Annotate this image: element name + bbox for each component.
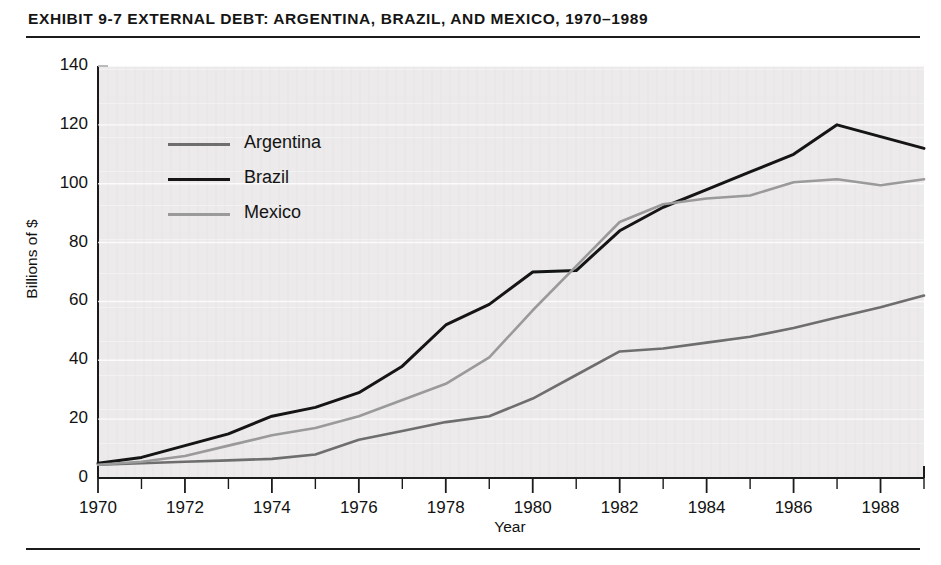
title-block: EXHIBIT 9-7 EXTERNAL DEBT: ARGENTINA, BR… <box>0 0 941 40</box>
y-tick-label: 100 <box>42 173 88 193</box>
y-tick-label: 140 <box>42 55 88 75</box>
plot-svg <box>0 40 941 540</box>
y-tick-label: 20 <box>42 408 88 428</box>
x-tick-label: 1974 <box>237 498 307 518</box>
legend-label: Argentina <box>244 132 321 153</box>
title-divider <box>26 36 920 38</box>
y-tick-label: 40 <box>42 349 88 369</box>
legend-label: Brazil <box>244 167 289 188</box>
x-tick-label: 1986 <box>759 498 829 518</box>
series-line-argentina <box>98 296 924 465</box>
y-tick-label: 120 <box>42 114 88 134</box>
legend-swatch-brazil <box>168 178 230 181</box>
x-tick-label: 1976 <box>324 498 394 518</box>
x-axis-title: Year <box>430 518 590 536</box>
exhibit-page: EXHIBIT 9-7 EXTERNAL DEBT: ARGENTINA, BR… <box>0 0 941 565</box>
y-tick-label: 80 <box>42 232 88 252</box>
x-tick-label: 1970 <box>63 498 133 518</box>
x-tick-label: 1972 <box>150 498 220 518</box>
y-tick-label: 0 <box>42 467 88 487</box>
x-tick-label: 1978 <box>411 498 481 518</box>
legend-swatch-argentina <box>168 143 230 146</box>
legend-swatch-mexico <box>168 213 230 216</box>
x-tick-label: 1982 <box>585 498 655 518</box>
legend-label: Mexico <box>244 202 301 223</box>
line-chart: 020406080100120140 197019721974197619781… <box>0 40 941 540</box>
series-line-brazil <box>98 125 924 463</box>
bottom-divider <box>26 548 920 550</box>
y-tick-label: 60 <box>42 290 88 310</box>
x-tick-label: 1980 <box>498 498 568 518</box>
series-line-mexico <box>98 179 924 464</box>
page-title: EXHIBIT 9-7 EXTERNAL DEBT: ARGENTINA, BR… <box>28 10 648 28</box>
y-axis-title: Billions of $ <box>23 189 41 329</box>
x-tick-label: 1988 <box>846 498 916 518</box>
x-tick-label: 1984 <box>672 498 742 518</box>
